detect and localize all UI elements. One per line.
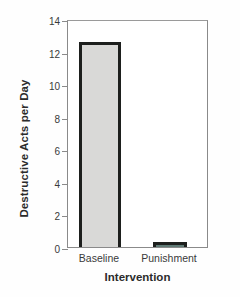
x-tick-label-baseline: Baseline <box>79 252 119 264</box>
y-tick-label: 2 <box>54 211 60 222</box>
y-tick-label: 8 <box>54 113 60 124</box>
bar-chart-figure: Destructive Acts per Day 02468101214 Bas… <box>0 0 240 297</box>
y-axis-title-text: Destructive Acts per Day <box>18 79 30 217</box>
y-axis-title: Destructive Acts per Day <box>0 0 22 297</box>
y-tick-label: 4 <box>54 178 60 189</box>
y-tick-label: 0 <box>54 244 60 255</box>
bar-punishment <box>153 242 187 247</box>
y-tick-mark <box>62 21 68 22</box>
y-tick-label: 10 <box>49 81 60 92</box>
y-tick-mark <box>62 151 68 152</box>
y-tick-mark <box>62 249 68 250</box>
y-tick-label: 14 <box>49 16 60 27</box>
y-tick-mark <box>62 184 68 185</box>
bar-baseline <box>79 42 121 247</box>
y-tick-mark <box>62 119 68 120</box>
y-tick-label: 6 <box>54 146 60 157</box>
plot-area: 02468101214 <box>67 20 208 248</box>
x-tick-label-punishment: Punishment <box>141 252 196 264</box>
y-tick-mark <box>62 86 68 87</box>
y-tick-label: 12 <box>49 48 60 59</box>
x-axis-title: Intervention <box>67 271 208 283</box>
y-tick-mark <box>62 54 68 55</box>
y-tick-mark <box>62 216 68 217</box>
